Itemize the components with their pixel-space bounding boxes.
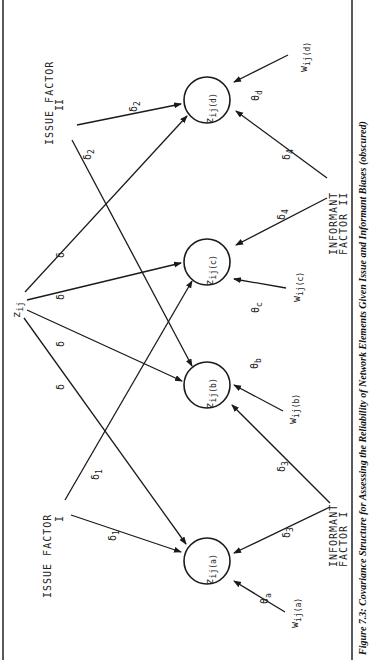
delta-zij-c: δ <box>55 294 66 300</box>
edge-wd-to-d <box>234 55 288 82</box>
delta1-issue1-c: δ1 <box>90 469 104 480</box>
delta4-informant2-d: δ4 <box>281 149 295 160</box>
edge-issue1-to-a <box>71 515 181 552</box>
edge-informant2-to-c <box>236 198 327 245</box>
w-b-label: wij(b) <box>287 394 301 424</box>
edge-zij-to-c <box>27 263 181 300</box>
edges-from-zij <box>24 116 187 544</box>
node-zij-a: zij(a) <box>184 538 230 585</box>
issue-factor-1-line1: ISSUE FACTOR <box>42 514 53 598</box>
node-zij-c: zij(c) <box>184 239 230 286</box>
path-diagram: zij(d) zij(c) zij(b) zij(a) zij ISSUE FA… <box>0 0 371 660</box>
delta-zij-b: δ <box>55 341 66 347</box>
edge-issue1-to-c <box>65 281 192 500</box>
delta3-informant1-a: δ3 <box>281 527 295 538</box>
delta2-issue2-b: δ2 <box>82 149 96 160</box>
informant-factor-1-line2: FACTOR I <box>338 511 349 567</box>
theta-a-label: θa <box>259 593 273 604</box>
edges-informant-factors <box>232 111 330 553</box>
delta3-informant1-b: δ3 <box>276 461 290 472</box>
edges-errors <box>234 55 288 612</box>
informant-factor-2-line2: FACTOR II <box>338 192 349 255</box>
edge-informant2-to-d <box>236 111 327 178</box>
w-d-label: wij(d) <box>298 42 312 72</box>
delta1-issue1-a: δ1 <box>107 530 121 541</box>
source-zij-label: zij <box>10 302 25 318</box>
edges-issue-factors <box>65 104 192 552</box>
edge-informant1-to-b <box>232 405 330 503</box>
issue-factor-2-line2: II <box>54 99 65 111</box>
edge-zij-to-b <box>27 310 182 381</box>
delta-zij-a: δ <box>55 384 66 390</box>
node-zij-d: zij(d) <box>184 77 230 124</box>
node-zij-b: zij(b) <box>184 362 230 409</box>
edge-wc-to-c <box>234 279 286 288</box>
w-c-label: wij(c) <box>291 272 305 302</box>
edge-wb-to-b <box>234 385 283 411</box>
theta-c-label: θc <box>250 302 264 313</box>
delta2-issue2-d: δ2 <box>128 101 142 112</box>
w-a-label: wij(a) <box>289 598 303 628</box>
edge-issue2-to-b <box>72 140 192 366</box>
edge-wa-to-a <box>234 581 285 612</box>
edge-informant1-to-a <box>234 507 330 553</box>
delta-zij-d: δ <box>55 252 66 258</box>
theta-d-label: θd <box>250 90 264 101</box>
issue-factor-1-line2: I <box>54 516 65 522</box>
figure-caption: Figure 7.3: Covariance Structure for Ass… <box>357 121 369 656</box>
theta-b-label: θb <box>249 358 263 369</box>
